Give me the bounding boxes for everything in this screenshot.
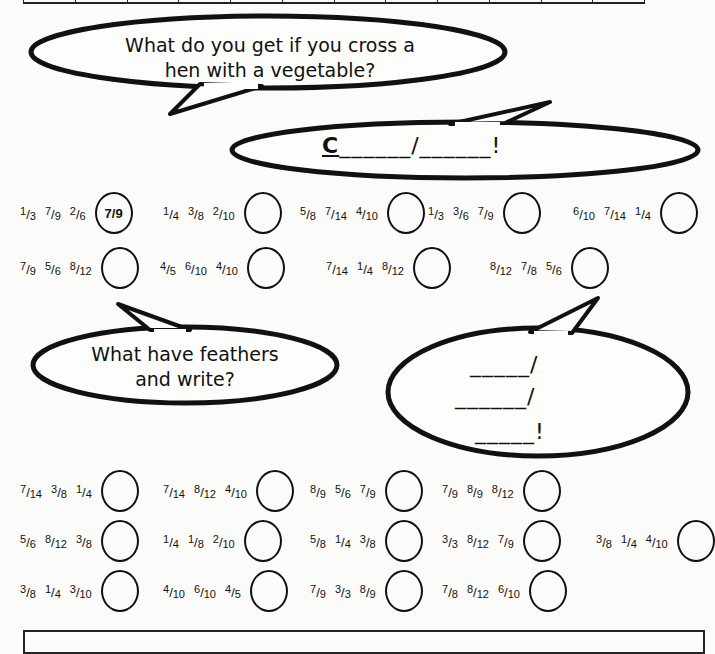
fraction: 8/12 — [490, 260, 512, 277]
fraction: 7/9 — [310, 583, 326, 600]
fraction: 7/9 — [498, 533, 514, 550]
fraction: 2/6 — [70, 205, 86, 222]
fraction: 1/4 — [621, 533, 637, 550]
fraction: 6/10 — [498, 583, 520, 600]
fraction: 6/10 — [185, 260, 207, 277]
answer-circle[interactable] — [101, 570, 139, 612]
fraction: 7/14 — [604, 205, 626, 222]
fraction: 1/4 — [45, 583, 61, 600]
answer-circle[interactable] — [244, 192, 282, 234]
fraction: 7/9 — [442, 483, 458, 500]
fraction-group: 4/106/104/5 — [163, 570, 288, 612]
fraction: 1/3 — [20, 205, 36, 222]
fraction: 7/14 — [325, 205, 347, 222]
answer-circle[interactable] — [413, 247, 451, 289]
fraction-group: 4/56/104/10 — [160, 247, 285, 289]
fraction: 4/10 — [225, 483, 247, 500]
fraction-group: 1/37/92/67/9 — [20, 192, 133, 234]
fraction: 1/4 — [76, 483, 92, 500]
fraction: 3/8 — [188, 205, 204, 222]
answer-2-line-3[interactable]: _____! — [475, 419, 545, 444]
fraction: 4/10 — [216, 260, 238, 277]
fraction: 8/12 — [492, 483, 514, 500]
fraction: 7/8 — [521, 260, 537, 277]
fraction: 3/3 — [335, 583, 351, 600]
fraction: 1/4 — [163, 205, 179, 222]
fraction-group: 8/127/85/6 — [490, 247, 609, 289]
answer-circle[interactable] — [256, 470, 294, 512]
fraction: 1/3 — [428, 205, 444, 222]
fraction: 5/6 — [20, 533, 36, 550]
answer-circle[interactable] — [677, 520, 715, 562]
question-2-text: What have feathers and write? — [80, 342, 290, 392]
fraction: 8/9 — [310, 483, 326, 500]
question-1-text: What do you get if you cross a hen with … — [110, 33, 430, 83]
bottom-box — [23, 630, 705, 654]
fraction: 7/14 — [20, 483, 42, 500]
fraction-group: 7/93/38/9 — [310, 570, 423, 612]
fraction: 7/9 — [45, 205, 61, 222]
fraction-group: 5/87/144/10 — [300, 192, 425, 234]
fraction: 2/10 — [213, 533, 235, 550]
answer-circle[interactable] — [523, 520, 561, 562]
answer-circle[interactable] — [660, 192, 698, 234]
fraction: 7/9 — [478, 205, 494, 222]
fraction: 2/10 — [213, 205, 235, 222]
answer-circle[interactable] — [523, 470, 561, 512]
fraction: 7/8 — [442, 583, 458, 600]
fraction: 3/6 — [453, 205, 469, 222]
answer-circle[interactable] — [387, 192, 425, 234]
fraction-group: 3/38/127/9 — [442, 520, 561, 562]
answer-2-line-1[interactable]: _____/ — [470, 352, 538, 377]
answer-circle[interactable] — [250, 570, 288, 612]
fraction: 4/10 — [356, 205, 378, 222]
fraction: 8/9 — [467, 483, 483, 500]
answer-circle[interactable] — [385, 570, 423, 612]
fraction: 8/12 — [45, 533, 67, 550]
fraction: 3/10 — [70, 583, 92, 600]
fraction-group: 5/81/43/8 — [310, 520, 423, 562]
answer-circle[interactable] — [101, 470, 139, 512]
fraction-group: 1/41/82/10 — [163, 520, 282, 562]
answer-circle[interactable] — [385, 470, 423, 512]
answer-circle[interactable] — [503, 192, 541, 234]
fraction-group: 1/33/67/9 — [428, 192, 541, 234]
fraction: 5/8 — [300, 205, 316, 222]
answer-circle[interactable] — [101, 247, 139, 289]
fraction-group: 7/98/98/12 — [442, 470, 561, 512]
fraction: 3/8 — [596, 533, 612, 550]
fraction: 7/14 — [326, 260, 348, 277]
answer-circle[interactable]: 7/9 — [95, 192, 133, 234]
answer-circle[interactable] — [571, 247, 609, 289]
fraction-group: 7/88/126/10 — [442, 570, 567, 612]
fraction-group: 7/141/48/12 — [326, 247, 451, 289]
fraction: 3/8 — [360, 533, 376, 550]
fraction: 1/4 — [357, 260, 373, 277]
answer-circle[interactable] — [529, 570, 567, 612]
fraction-group: 6/107/141/4 — [573, 192, 698, 234]
answer-circle[interactable] — [385, 520, 423, 562]
fraction: 3/8 — [20, 583, 36, 600]
answer-1-first-letter: C — [322, 133, 339, 158]
fraction: 1/8 — [188, 533, 204, 550]
fraction: 5/6 — [45, 260, 61, 277]
fraction-group: 3/81/43/10 — [20, 570, 139, 612]
fraction: 8/12 — [382, 260, 404, 277]
fraction: 8/12 — [467, 583, 489, 600]
answer-circle[interactable] — [247, 247, 285, 289]
fraction: 8/12 — [467, 533, 489, 550]
fraction: 7/9 — [20, 260, 36, 277]
answer-circle[interactable] — [101, 520, 139, 562]
answer-2-line-2[interactable]: ______/ — [455, 384, 535, 409]
answer-1-blanks[interactable]: C______/______! — [322, 133, 501, 158]
fraction-group: 7/148/124/10 — [163, 470, 294, 512]
fraction: 5/8 — [310, 533, 326, 550]
fraction: 4/10 — [163, 583, 185, 600]
fraction: 4/5 — [160, 260, 176, 277]
answer-circle[interactable] — [244, 520, 282, 562]
fraction: 7/9 — [360, 483, 376, 500]
fraction-group: 7/143/81/4 — [20, 470, 139, 512]
fraction: 8/12 — [70, 260, 92, 277]
fraction: 1/4 — [635, 205, 651, 222]
fraction: 5/6 — [335, 483, 351, 500]
